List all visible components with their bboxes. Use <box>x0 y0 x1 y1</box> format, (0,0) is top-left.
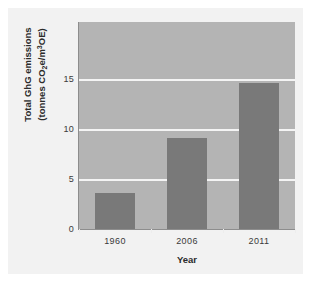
x-tick-label-1960: 1960 <box>91 236 139 246</box>
y-axis-title-superscript: 3 <box>36 45 43 49</box>
y-axis-title-subscript: 2 <box>41 66 48 70</box>
x-tick-mark <box>151 229 152 233</box>
figure-panel: 051015 196020062011 Year Total GhG emiss… <box>8 8 303 274</box>
y-axis-title-line1: Total GhG emissions <box>22 0 34 160</box>
bar-2006 <box>167 138 207 230</box>
y-axis-title-unit-mid: e/m <box>36 49 47 65</box>
bar-1960 <box>95 193 135 230</box>
y-axis-line <box>78 22 79 230</box>
y-tick-label-5: 5 <box>48 174 74 184</box>
y-tick-label-0: 0 <box>48 224 74 234</box>
y-axis-title: Total GhG emissions (tonnes CO2e/m3OE) <box>22 0 51 160</box>
x-tick-label-2006: 2006 <box>163 236 211 246</box>
y-axis-title-unit-prefix: (tonnes CO <box>36 69 47 120</box>
x-axis-line <box>78 229 295 230</box>
x-tick-mark <box>79 229 80 233</box>
x-axis-title: Year <box>79 254 295 265</box>
y-tick-label-15: 15 <box>48 74 74 84</box>
y-axis-title-line2: (tonnes CO2e/m3OE) <box>34 0 51 160</box>
x-tick-mark <box>295 229 296 233</box>
bar-2011 <box>239 83 279 230</box>
plot-area <box>79 22 295 230</box>
y-tick-label-10: 10 <box>48 124 74 134</box>
y-axis-title-unit-suffix: OE) <box>36 28 47 45</box>
x-tick-mark <box>223 229 224 233</box>
x-tick-label-2011: 2011 <box>235 236 283 246</box>
gridline <box>79 79 295 81</box>
